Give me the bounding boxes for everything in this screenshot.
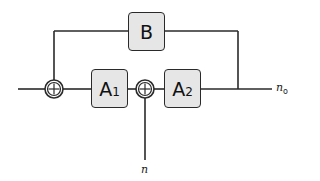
- block-a2: A2: [164, 69, 201, 108]
- summing-junction-1: [45, 80, 63, 98]
- block-a1-subscript: 1: [112, 85, 120, 99]
- summing-junction-2: [136, 80, 154, 98]
- block-b: B: [128, 12, 165, 51]
- output-label: no: [276, 81, 288, 96]
- block-a2-subscript: 2: [185, 85, 193, 99]
- block-a1-label: A: [99, 78, 112, 100]
- noise-label: n: [141, 163, 148, 176]
- block-b-label: B: [140, 21, 153, 43]
- block-a1: A1: [91, 69, 128, 108]
- block-a2-label: A: [172, 78, 185, 100]
